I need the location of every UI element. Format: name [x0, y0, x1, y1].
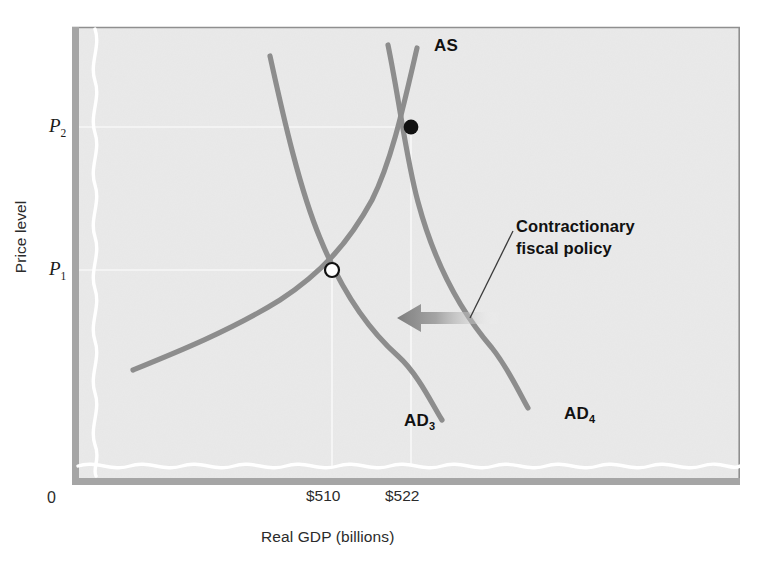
ad3-curve-label-text: AD: [404, 411, 429, 430]
ad4-curve-label: AD4: [564, 404, 595, 425]
y-tick-p2-sub: 2: [61, 127, 67, 139]
equilibrium-point-p1[interactable]: [325, 263, 339, 277]
x-axis-title: Real GDP (billions): [261, 528, 394, 546]
as-curve-label: AS: [434, 36, 458, 56]
annotation-callout: Contractionary fiscal policy: [516, 216, 635, 260]
ad-as-chart: [0, 0, 769, 569]
y-axis: [72, 27, 79, 485]
figure-canvas: Price level Real GDP (billions) 0 $510 $…: [0, 0, 769, 569]
annotation-line-2: fiscal policy: [516, 238, 635, 260]
y-tick-p1: P1: [49, 258, 66, 282]
y-tick-p1-sub: 1: [61, 270, 67, 282]
equilibrium-point-p2[interactable]: [404, 120, 419, 135]
ad3-curve-label-sub: 3: [429, 420, 435, 432]
ad4-curve-label-text: AD: [564, 404, 589, 423]
as-curve-label-text: AS: [434, 36, 458, 55]
origin-label: 0: [47, 489, 56, 507]
ad4-curve-label-sub: 4: [589, 413, 595, 425]
x-axis: [72, 478, 740, 485]
annotation-line-1: Contractionary: [516, 216, 635, 238]
y-tick-p1-text: P: [49, 258, 61, 279]
x-tick-510: $510: [306, 487, 340, 505]
ad3-curve-label: AD3: [404, 411, 435, 432]
x-tick-522: $522: [385, 487, 419, 505]
y-tick-p2: P2: [49, 115, 66, 139]
y-tick-p2-text: P: [49, 115, 61, 136]
y-axis-title: Price level: [12, 177, 30, 297]
